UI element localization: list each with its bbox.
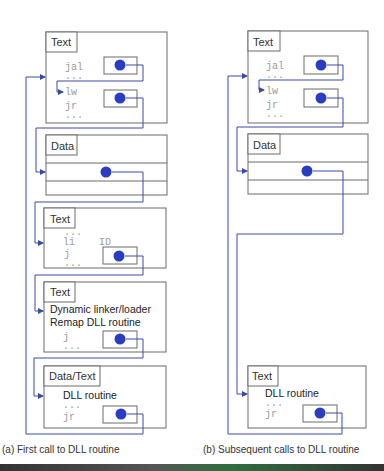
a-pointer-dot-5 [116,409,127,420]
a-box5-jr: jr [63,412,75,423]
b-pointer-dot-2 [316,93,327,104]
dll-diagram: Text jal ... lw jr ... Data Text ... [0,0,384,471]
a-box4-line2: Remap DLL routine [50,316,141,328]
a-box4-line1: Dynamic linker/loader [50,303,151,315]
a-box5-dots: ... [63,400,81,411]
a-box3-id: ID [99,237,111,248]
a-text-box-1: Text jal ... lw jr ... [46,32,167,123]
panel-b: Text jal ... lw jr ... Data Text DLL rou… [203,31,368,455]
a-stub-text-box: Text ... li ID j ... [44,208,166,269]
a-box1-dots1: ... [65,71,83,82]
a-box4-dots: ... [63,341,81,352]
a-box3-dots2: ... [64,258,82,269]
b-box2-tab: Data [253,139,277,151]
b-text-box-1: Text jal ... lw jr ... [248,31,368,123]
a-box3-li: li [63,237,75,248]
b-dll-box: Text DLL routine ... jr [248,366,366,428]
a-box1-lw: lw [65,87,77,98]
b-box1-dots2: ... [266,109,284,120]
b-pointer-dot-1 [316,60,327,71]
bottom-edge-bar [0,464,384,471]
a-dll-box: Data/Text DLL routine ... jr [44,366,166,428]
b-box1-lw: lw [266,86,278,97]
a-pointer-dot-4 [115,334,126,345]
b-pointer-dot-3 [315,408,326,419]
b-data-pointer-dot [302,166,313,177]
a-box1-tab: Text [51,36,71,48]
b-box3-dots: ... [265,398,283,409]
a-linker-text-box: Text Dynamic linker/loader Remap DLL rou… [44,282,166,352]
a-box5-tab: Data/Text [49,370,95,382]
a-box4-tab: Text [50,286,70,298]
a-data-box: Data [46,135,167,195]
b-data-box: Data [248,134,368,194]
a-pointer-dot-2 [115,93,126,104]
b-box3-jr: jr [265,409,277,420]
a-caption: (a) First call to DLL routine [2,444,120,455]
b-box1-dots1: ... [266,70,284,81]
b-box3-tab: Text [252,370,272,382]
b-box1-tab: Text [253,36,273,48]
a-pointer-dot-3 [114,251,125,262]
a-data-pointer-dot [101,167,112,178]
a-box1-dots2: ... [65,110,83,121]
b-caption: (b) Subsequent calls to DLL routine [203,444,360,455]
a-box3-tab: Text [50,213,70,225]
a-box2-tab: Data [51,140,75,152]
panel-a: Text jal ... lw jr ... Data Text ... [2,32,167,455]
a-pointer-dot-1 [115,60,126,71]
